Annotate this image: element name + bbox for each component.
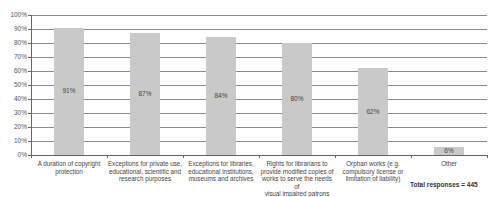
- bar-value-label: 80%: [282, 95, 312, 103]
- gridline: [31, 71, 487, 72]
- bar-value-label: 91%: [54, 87, 84, 95]
- gridline: [31, 127, 487, 128]
- x-tick-mark: [259, 155, 260, 158]
- gridline: [31, 113, 487, 114]
- bar-value-label: 62%: [358, 108, 388, 116]
- gridline: [31, 29, 487, 30]
- x-tick-mark: [487, 155, 488, 158]
- y-tick-label: 0%: [0, 151, 27, 159]
- y-tick-label: 30%: [0, 109, 27, 117]
- bar-chart: 0%10%20%30%40%50%60%70%80%90%100%91%A du…: [0, 0, 498, 197]
- y-axis: [31, 15, 32, 155]
- x-tick-mark: [183, 155, 184, 158]
- category-label: Other: [411, 160, 487, 168]
- category-label: Rights for librarians to provide modifie…: [259, 160, 335, 197]
- y-tick-label: 20%: [0, 123, 27, 131]
- y-tick-label: 50%: [0, 81, 27, 89]
- y-tick-label: 60%: [0, 67, 27, 75]
- gridline: [31, 99, 487, 100]
- y-tick-label: 80%: [0, 39, 27, 47]
- gridline: [31, 43, 487, 44]
- x-tick-mark: [107, 155, 108, 158]
- x-tick-mark: [335, 155, 336, 158]
- x-tick-mark: [411, 155, 412, 158]
- y-tick-label: 100%: [0, 11, 27, 19]
- gridline: [31, 85, 487, 86]
- category-label: A duration of copyright protection: [31, 160, 107, 175]
- y-tick-label: 90%: [0, 25, 27, 33]
- x-tick-mark: [31, 155, 32, 158]
- category-label: Orphan works (e.g. compulsory license or…: [335, 160, 411, 183]
- bar-value-label: 6%: [434, 147, 464, 155]
- y-tick-label: 40%: [0, 95, 27, 103]
- y-tick-label: 70%: [0, 53, 27, 61]
- y-tick-label: 10%: [0, 137, 27, 145]
- gridline: [31, 141, 487, 142]
- bar-value-label: 84%: [206, 92, 236, 100]
- total-responses-label: Total responses = 445: [410, 181, 478, 188]
- gridline: [31, 57, 487, 58]
- gridline: [31, 15, 487, 16]
- bar-value-label: 87%: [130, 90, 160, 98]
- category-label: Exceptions for private use, educational,…: [107, 160, 183, 183]
- category-label: Exceptions for libraries, educational in…: [183, 160, 259, 183]
